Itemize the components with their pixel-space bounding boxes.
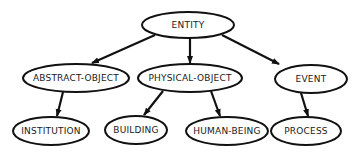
label-physical-object: PHYSICAL-OBJECT	[148, 73, 232, 83]
arrow-event-to-process	[301, 93, 308, 116]
arrow-entity-to-event	[222, 35, 279, 64]
diagram-svg: ENTITYABSTRACT-OBJECTPHYSICAL-OBJECTEVEN…	[0, 0, 355, 158]
label-abstract-object: ABSTRACT-OBJECT	[33, 73, 119, 83]
node-process: PROCESS	[271, 117, 341, 145]
arrow-physical-object-to-human-being	[211, 91, 220, 116]
node-human-being: HUMAN-BEING	[186, 117, 268, 145]
label-event: EVENT	[296, 74, 327, 84]
hierarchy-diagram: ENTITYABSTRACT-OBJECTPHYSICAL-OBJECTEVEN…	[0, 0, 355, 158]
node-entity: ENTITY	[142, 12, 234, 38]
node-building: BUILDING	[105, 116, 167, 144]
node-institution: INSTITUTION	[13, 117, 89, 145]
label-process: PROCESS	[284, 126, 328, 136]
arrow-entity-to-abstract-object	[92, 35, 155, 63]
arrow-physical-object-to-building	[144, 91, 163, 115]
node-event: EVENT	[275, 65, 347, 93]
node-physical-object: PHYSICAL-OBJECT	[138, 64, 242, 92]
nodes-layer: ENTITYABSTRACT-OBJECTPHYSICAL-OBJECTEVEN…	[13, 12, 347, 145]
label-human-being: HUMAN-BEING	[193, 126, 260, 136]
label-building: BUILDING	[113, 125, 158, 135]
arrow-abstract-object-to-institution	[57, 92, 63, 116]
node-abstract-object: ABSTRACT-OBJECT	[23, 64, 129, 92]
label-institution: INSTITUTION	[21, 126, 81, 136]
label-entity: ENTITY	[172, 20, 205, 30]
